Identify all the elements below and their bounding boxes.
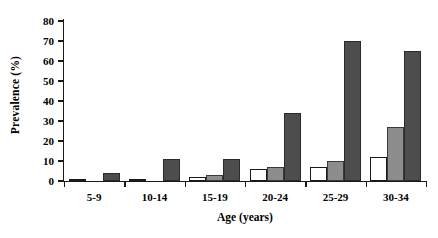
y-axis-tick-label: 50: [26, 76, 54, 87]
bar-30-34-series-2: [387, 127, 404, 181]
y-axis-tick-label: 60: [26, 56, 54, 67]
y-axis-tick: [58, 40, 63, 41]
y-axis-tick-label: 30: [26, 116, 54, 127]
y-axis-tick: [58, 20, 63, 21]
y-axis-title-text: Prevalence (%): [9, 56, 21, 134]
bar-chart: Prevalence (%) 01020304050607080 5-910-1…: [0, 0, 438, 238]
y-axis-tick: [58, 100, 63, 101]
bar-20-24-series-1: [250, 169, 267, 181]
x-axis-label-10-14: 10-14: [124, 192, 184, 203]
bar-15-19-series-3: [223, 159, 240, 181]
bar-30-34-series-1: [370, 157, 387, 181]
bar-30-34-series-3: [404, 51, 421, 181]
y-axis-tick-label: 40: [26, 96, 54, 107]
x-axis-separator: [426, 182, 427, 187]
x-axis-label-25-29: 25-29: [305, 192, 365, 203]
bar-20-24-series-3: [284, 113, 301, 181]
x-axis-separator: [64, 182, 65, 187]
bar-15-19-series-1: [189, 177, 206, 181]
x-axis-separator: [124, 182, 125, 187]
bar-10-14-series-3: [163, 159, 180, 181]
y-axis-tick: [58, 160, 63, 161]
x-axis-label-5-9: 5-9: [64, 192, 124, 203]
x-axis-label-20-24: 20-24: [245, 192, 305, 203]
y-axis-tick: [58, 80, 63, 81]
y-axis-tick-label: 80: [26, 16, 54, 27]
y-axis-tick: [58, 60, 63, 61]
y-axis-tick: [58, 140, 63, 141]
bar-25-29-series-1: [310, 167, 327, 181]
x-axis-label-30-34: 30-34: [366, 192, 426, 203]
plot-area: [64, 21, 426, 181]
y-axis-tick-label: 20: [26, 136, 54, 147]
bar-5-9-series-3: [103, 173, 120, 181]
x-axis-separator: [366, 182, 367, 187]
y-axis-tick: [58, 120, 63, 121]
x-axis-separator: [245, 182, 246, 187]
y-axis-tick-label: 10: [26, 156, 54, 167]
y-axis-tick-label: 70: [26, 36, 54, 47]
y-axis-tick-label: 0: [26, 176, 54, 187]
bar-5-9-series-1: [69, 179, 86, 181]
x-axis-label-15-19: 15-19: [185, 192, 245, 203]
y-axis-tick: [58, 180, 63, 181]
x-axis-separator: [305, 182, 306, 187]
x-axis-separator: [185, 182, 186, 187]
x-axis-title: Age (years): [64, 211, 426, 223]
bar-25-29-series-3: [344, 41, 361, 181]
bar-20-24-series-2: [267, 167, 284, 181]
bar-25-29-series-2: [327, 161, 344, 181]
bar-15-19-series-2: [206, 175, 223, 181]
bar-10-14-series-1: [129, 179, 146, 181]
